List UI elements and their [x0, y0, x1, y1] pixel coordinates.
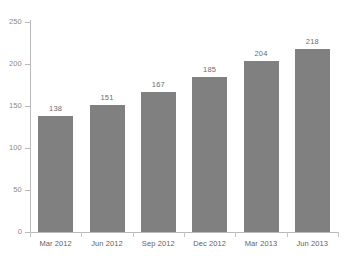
x-axis-tick-mark	[133, 232, 134, 237]
bar-value-label: 218	[292, 38, 332, 46]
x-axis-category-label: Mar 2012	[30, 240, 81, 248]
x-axis-tick-mark	[338, 232, 339, 237]
bar	[141, 92, 176, 232]
bar-value-label: 138	[36, 105, 76, 113]
x-axis-category-label: Jun 2012	[81, 240, 132, 248]
bar	[90, 105, 125, 232]
x-axis-tick-mark	[287, 232, 288, 237]
x-axis-tick-mark	[184, 232, 185, 237]
y-axis-tick-mark	[25, 190, 30, 191]
bar-value-label: 204	[241, 50, 281, 58]
bar	[295, 49, 330, 232]
y-axis-tick-label: 150	[0, 102, 22, 110]
y-axis-tick-mark	[25, 106, 30, 107]
bar-value-label: 185	[190, 66, 230, 74]
bar-chart: 050100150200250 138151167185204218 Mar 2…	[0, 0, 345, 268]
bar	[192, 77, 227, 232]
x-axis-tick-mark	[235, 232, 236, 237]
bar-value-label: 151	[87, 94, 127, 102]
x-axis-category-label: Dec 2012	[184, 240, 235, 248]
plot-area: 050100150200250 138151167185204218 Mar 2…	[0, 0, 345, 268]
x-axis-category-label: Sep 2012	[133, 240, 184, 248]
y-axis-tick-label: 100	[0, 144, 22, 152]
y-axis-tick-mark	[25, 22, 30, 23]
y-axis-tick-label: 0	[0, 228, 22, 236]
y-axis-tick-mark	[25, 148, 30, 149]
bar	[38, 116, 73, 232]
y-axis-tick-label: 200	[0, 60, 22, 68]
x-axis-category-label: Jun 2013	[287, 240, 338, 248]
y-axis-line	[30, 20, 31, 233]
x-axis-category-label: Mar 2013	[235, 240, 286, 248]
bar-value-label: 167	[138, 81, 178, 89]
y-axis-tick-label: 50	[0, 186, 22, 194]
x-axis-tick-mark	[81, 232, 82, 237]
y-axis-tick-label: 250	[0, 18, 22, 26]
x-axis-tick-mark	[30, 232, 31, 237]
bar	[244, 61, 279, 232]
y-axis-tick-mark	[25, 64, 30, 65]
